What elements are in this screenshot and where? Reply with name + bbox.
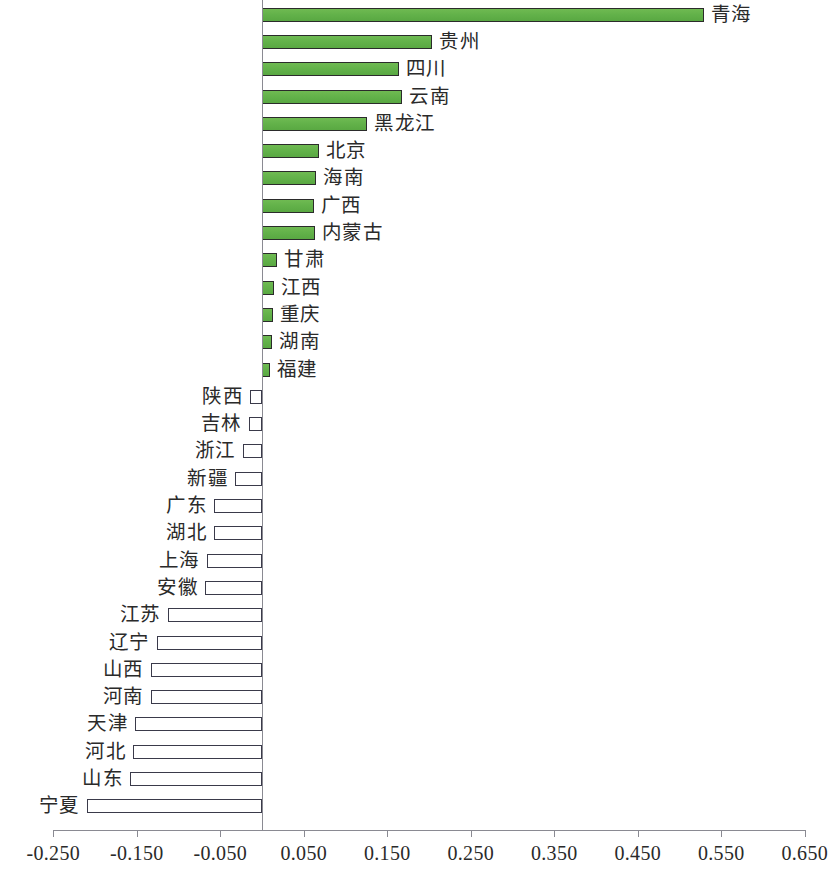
bar-category-label: 河北	[85, 742, 126, 762]
bar	[262, 144, 319, 158]
bar-row: 浙江	[0, 438, 822, 465]
bar-category-label: 北京	[326, 141, 367, 161]
bar-category-label: 天津	[87, 715, 128, 735]
x-axis-tick-label: 0.550	[698, 843, 745, 863]
bar-category-label: 福建	[277, 360, 318, 380]
bar-row: 福建	[0, 356, 822, 383]
bar	[262, 8, 704, 22]
bar-category-label: 浙江	[195, 442, 236, 462]
bar-category-label: 山东	[82, 769, 123, 789]
x-axis-tick-label: 0.050	[281, 843, 328, 863]
x-axis-tick-label: -0.050	[194, 843, 247, 863]
bar	[262, 335, 272, 349]
bar-row: 四川	[0, 56, 822, 83]
bar-category-label: 海南	[323, 169, 364, 189]
bar-row: 内蒙古	[0, 219, 822, 246]
bar-category-label: 山西	[103, 660, 144, 680]
bar-row: 甘肃	[0, 247, 822, 274]
bar-row: 青海	[0, 1, 822, 28]
bar-category-label: 贵州	[439, 32, 480, 52]
x-axis-tick	[554, 830, 555, 837]
x-axis-tick-label: 0.650	[782, 843, 828, 863]
bar-category-label: 江苏	[120, 605, 161, 625]
x-axis-tick	[638, 830, 639, 837]
bar-category-label: 青海	[711, 5, 752, 25]
bar-row: 江西	[0, 274, 822, 301]
bar	[168, 608, 262, 622]
bar-row: 宁夏	[0, 793, 822, 820]
bar	[151, 690, 262, 704]
x-axis-tick	[304, 830, 305, 837]
x-axis-line	[53, 830, 805, 831]
bar-category-label: 重庆	[280, 305, 321, 325]
bar	[214, 526, 262, 540]
bar-row: 云南	[0, 83, 822, 110]
bar-row: 广西	[0, 192, 822, 219]
bar-row: 河北	[0, 738, 822, 765]
bar	[235, 472, 262, 486]
bar	[130, 772, 262, 786]
bar-row: 海南	[0, 165, 822, 192]
bar-category-label: 内蒙古	[322, 223, 384, 243]
bar	[262, 363, 270, 377]
x-axis-tick	[805, 830, 806, 837]
bar	[133, 745, 262, 759]
plot-area: 青海贵州四川云南黑龙江北京海南广西内蒙古甘肃江西重庆湖南福建陕西吉林浙江新疆广东…	[0, 0, 822, 830]
bar-category-label: 湖北	[166, 524, 207, 544]
x-axis-tick	[387, 830, 388, 837]
x-axis-tick-label: 0.450	[615, 843, 662, 863]
bar	[243, 444, 262, 458]
bar-row: 辽宁	[0, 629, 822, 656]
bar	[262, 308, 273, 322]
bar	[262, 117, 367, 131]
bar	[262, 62, 399, 76]
bar-category-label: 江西	[281, 278, 322, 298]
bar-category-label: 湖南	[279, 332, 320, 352]
bar-category-label: 陕西	[202, 387, 243, 407]
bar	[207, 554, 262, 568]
bar-row: 山东	[0, 765, 822, 792]
bar	[262, 253, 277, 267]
bar	[157, 636, 262, 650]
bar-row: 天津	[0, 711, 822, 738]
bar-category-label: 新疆	[187, 469, 228, 489]
x-axis-tick-label: 0.250	[448, 843, 495, 863]
x-axis: -0.250-0.150-0.0500.0500.1500.2500.3500.…	[0, 830, 822, 869]
bar-row: 上海	[0, 547, 822, 574]
bar-row: 北京	[0, 138, 822, 165]
bar-row: 吉林	[0, 411, 822, 438]
bar	[262, 171, 316, 185]
x-axis-tick-label: 0.150	[364, 843, 411, 863]
bar-category-label: 宁夏	[39, 797, 80, 817]
bar	[262, 35, 432, 49]
bar-row: 湖南	[0, 329, 822, 356]
bar-row: 河南	[0, 684, 822, 711]
bar-row: 湖北	[0, 520, 822, 547]
bar-row: 江苏	[0, 602, 822, 629]
x-axis-tick-label: -0.150	[110, 843, 163, 863]
bar-row: 安徽	[0, 574, 822, 601]
bar-category-label: 辽宁	[109, 633, 150, 653]
bar	[151, 663, 262, 677]
bar-category-label: 河南	[103, 687, 144, 707]
bar	[205, 581, 262, 595]
x-axis-tick	[220, 830, 221, 837]
bar-row: 黑龙江	[0, 110, 822, 137]
bar	[262, 199, 314, 213]
bar	[87, 799, 262, 813]
bar-row: 新疆	[0, 465, 822, 492]
x-axis-tick	[53, 830, 54, 837]
bar	[262, 90, 402, 104]
bar	[262, 281, 274, 295]
bar-category-label: 安徽	[157, 578, 198, 598]
bar-category-label: 四川	[406, 59, 447, 79]
bar	[250, 390, 262, 404]
bar-category-label: 甘肃	[284, 251, 325, 271]
bar-category-label: 上海	[159, 551, 200, 571]
x-axis-tick-label: 0.350	[531, 843, 578, 863]
bar-row: 广东	[0, 492, 822, 519]
x-axis-tick-label: -0.250	[27, 843, 80, 863]
bar-category-label: 广东	[166, 496, 207, 516]
bar	[249, 417, 262, 431]
